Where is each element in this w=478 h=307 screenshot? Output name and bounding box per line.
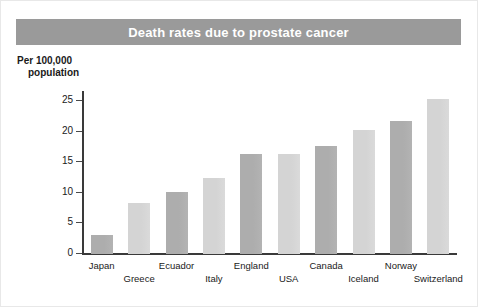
bar-fill [166, 192, 188, 254]
bar-norway [390, 121, 412, 254]
bar-italy [203, 178, 225, 254]
bar-iceland [353, 130, 375, 254]
x-label-england: England [234, 260, 269, 271]
bars-group [1, 1, 478, 254]
x-label-switzerland: Switzerland [414, 273, 463, 284]
bar-fill [315, 146, 337, 254]
bar-ecuador [166, 192, 188, 254]
bar-canada [315, 146, 337, 254]
bar-fill [128, 203, 150, 254]
bar-england [240, 154, 262, 254]
x-label-iceland: Iceland [348, 273, 379, 284]
x-label-norway: Norway [385, 260, 417, 271]
bar-fill [278, 154, 300, 254]
x-label-ecuador: Ecuador [159, 260, 194, 271]
plot-area: 0510152025 JapanGreeceEcuadorItalyEnglan… [1, 1, 478, 307]
x-label-italy: Italy [205, 273, 222, 284]
x-label-japan: Japan [89, 260, 115, 271]
bar-fill [390, 121, 412, 254]
x-label-canada: Canada [309, 260, 342, 271]
x-label-greece: Greece [124, 273, 155, 284]
bar-usa [278, 154, 300, 254]
bar-greece [128, 203, 150, 254]
chart-figure: Death rates due to prostate cancer Per 1… [0, 0, 478, 307]
bar-fill [240, 154, 262, 254]
x-label-usa: USA [279, 273, 299, 284]
bar-fill [203, 178, 225, 254]
bar-fill [91, 235, 113, 254]
bar-fill [427, 99, 449, 254]
bar-fill [353, 130, 375, 254]
bar-switzerland [427, 99, 449, 254]
bar-japan [91, 235, 113, 254]
